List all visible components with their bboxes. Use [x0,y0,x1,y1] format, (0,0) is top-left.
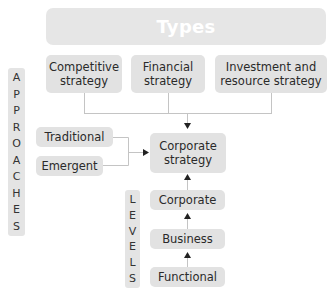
arrow-right-icon [143,149,149,156]
type-box-investment-resource-strategy: Investment and resource strategy [215,55,327,93]
level-box-functional: Functional [150,267,225,287]
types-header-label: Types [156,20,215,34]
level-box-corporate: Corporate [150,190,225,210]
arrow-up-icon [184,213,191,219]
level-box-business: Business [150,229,225,249]
levels-label: L E V E L S [125,190,140,288]
approaches-label: A P P R O A C H E S [8,68,25,236]
arrow-down-icon [184,123,191,129]
type-box-financial-strategy: Financial strategy [131,55,205,93]
type-box-competitive-strategy: Competitive strategy [46,55,122,93]
arrow-up-icon [184,252,191,258]
types-header: Types [46,8,326,45]
corporate-strategy-box: Corporate strategy [150,133,226,173]
approach-box-traditional: Traditional [36,127,113,147]
arrow-up-icon [184,174,191,180]
approach-box-emergent: Emergent [36,156,103,176]
